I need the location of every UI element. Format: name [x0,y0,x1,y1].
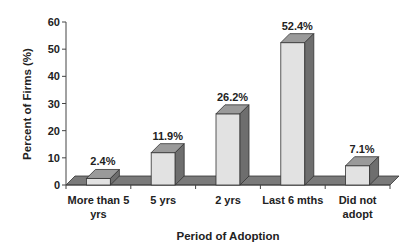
y-tick-label: 50 [48,43,60,55]
x-axis-title: Period of Adoption [176,230,279,242]
y-axis: 0102030405060 [48,16,66,191]
bar-chart: 0102030405060 More than 5yrs5 yrs2 yrsLa… [0,0,418,250]
x-category-label: Last 6 mths [262,194,323,206]
data-label: 2.4% [90,155,115,167]
x-category-label: More than 5yrs [68,194,130,220]
bar-series [86,34,378,185]
x-category-label: Did notadopt [339,194,377,220]
bar [151,144,184,185]
y-tick-label: 20 [48,125,60,137]
y-tick-label: 0 [54,179,60,191]
data-label: 52.4% [282,20,313,32]
y-tick-label: 10 [48,152,60,164]
data-label: 11.9% [152,130,183,142]
x-category-label: 5 yrs [150,194,176,206]
data-label: 26.2% [217,91,248,103]
y-tick-label: 40 [48,70,60,82]
bar [281,34,314,185]
bar [216,105,249,185]
data-label: 7.1% [350,143,375,155]
bar [346,157,379,185]
y-axis-title: Percent of Firms (%) [21,48,33,160]
y-tick-label: 60 [48,16,60,28]
y-tick-label: 30 [48,98,60,110]
x-axis: More than 5yrs5 yrs2 yrsLast 6 mthsDid n… [66,185,390,220]
x-category-label: 2 yrs [215,194,241,206]
